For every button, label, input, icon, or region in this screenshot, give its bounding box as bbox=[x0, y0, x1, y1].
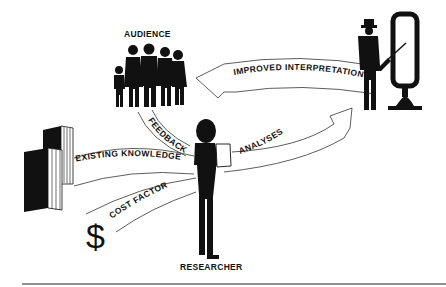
researcher-icon bbox=[194, 119, 231, 259]
analyses-arrow bbox=[224, 108, 352, 172]
researcher-label: RESEARCHER bbox=[180, 262, 243, 272]
existing-knowledge-label: EXISTING KNOWLEDGE bbox=[74, 148, 182, 164]
diagram-canvas: AUDIENCE IMPROVED INTERPRETATION bbox=[0, 0, 446, 287]
audience-silhouette-icon bbox=[114, 44, 187, 108]
improved-interpretation-label: IMPROVED INTERPRETATION bbox=[233, 62, 365, 80]
analyses-label: ANALYSES bbox=[237, 126, 284, 156]
dollar-icon: $ bbox=[86, 217, 105, 255]
books-icon bbox=[24, 126, 73, 212]
audience-label: AUDIENCE bbox=[124, 29, 171, 39]
presenter-icon bbox=[358, 14, 422, 110]
